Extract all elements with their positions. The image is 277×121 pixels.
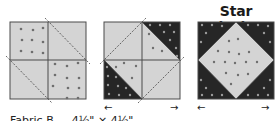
flipped-corners-diagram (104, 22, 180, 99)
block-step-3-finished (198, 22, 274, 99)
block-step-1 (10, 22, 86, 99)
fabric-caption: Fabric B — 4½" × 4½" (10, 114, 133, 121)
star-block-diagram (198, 22, 274, 99)
arrow-left-icon: ← (104, 104, 112, 112)
arrow-left-icon: ← (197, 104, 205, 112)
block-step-2 (104, 22, 180, 99)
four-patch-diagram (10, 22, 86, 99)
arrow-right-icon: → (170, 104, 178, 112)
arrow-right-icon: → (261, 104, 269, 112)
